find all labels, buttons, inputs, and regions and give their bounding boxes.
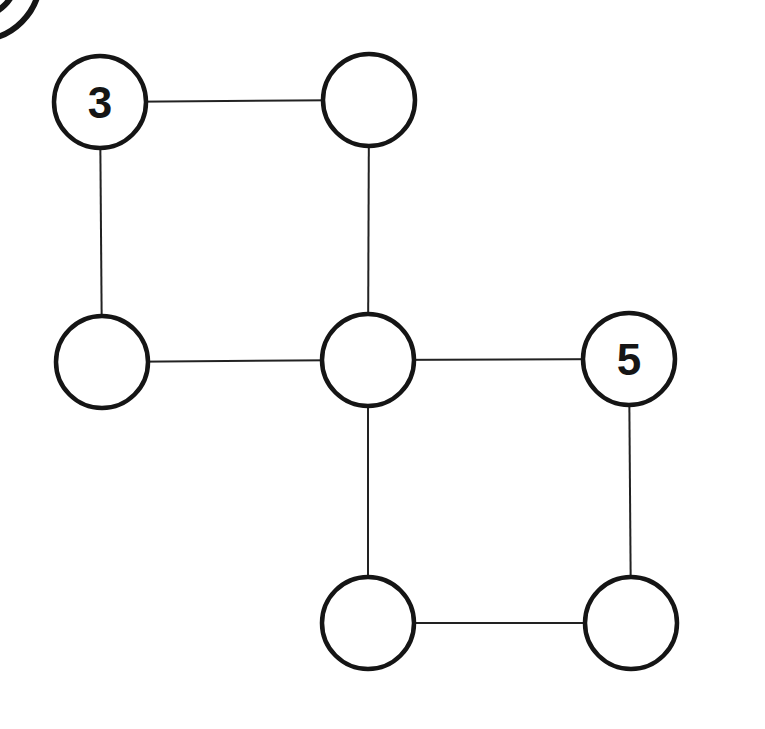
graph-diagram: 35: [0, 0, 765, 729]
graph-node[interactable]: [323, 54, 415, 146]
node-circle[interactable]: [585, 577, 677, 669]
node-circle[interactable]: [322, 314, 414, 406]
node-circle[interactable]: [56, 316, 148, 408]
node-circle[interactable]: [322, 577, 414, 669]
corner-double-ring-icon: [0, 0, 40, 40]
graph-node[interactable]: [322, 314, 414, 406]
node-label: 5: [617, 335, 641, 384]
graph-node[interactable]: 5: [583, 313, 675, 405]
graph-node[interactable]: [322, 577, 414, 669]
node-label: 3: [88, 78, 112, 127]
node-circle[interactable]: [323, 54, 415, 146]
nodes-layer: 35: [54, 54, 677, 669]
graph-node[interactable]: [56, 316, 148, 408]
graph-node[interactable]: 3: [54, 56, 146, 148]
graph-node[interactable]: [585, 577, 677, 669]
